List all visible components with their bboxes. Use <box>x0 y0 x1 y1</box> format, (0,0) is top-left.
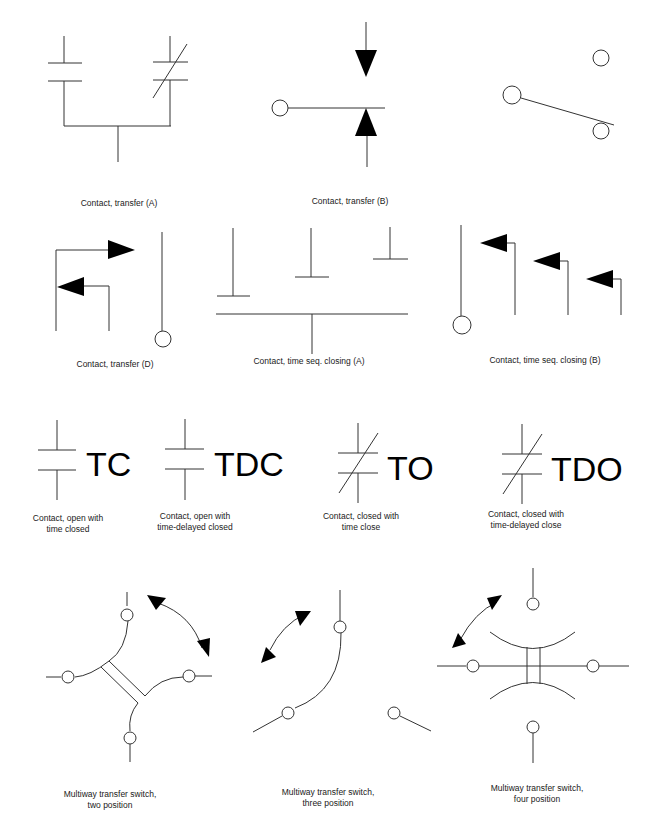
label-line-2: time closed <box>18 524 118 535</box>
label-line-1: Contact, closed with <box>311 511 411 522</box>
label-line-2: two position <box>50 800 170 811</box>
code-tdc: TDC <box>214 447 284 481</box>
contact-transfer-c-symbol <box>503 50 614 139</box>
multiway-four-position-symbol <box>437 568 629 763</box>
label-line-1: Multiway transfer switch, <box>268 787 388 798</box>
label-line-1: Multiway transfer switch, <box>477 783 597 794</box>
contact-closed-time-close-symbol <box>338 423 378 503</box>
label-contact-time-seq-closing-a: Contact, time seq. closing (A) <box>234 356 384 367</box>
label-contact-time-seq-closing-b: Contact, time seq. closing (B) <box>470 355 620 366</box>
label-line-1: Multiway transfer switch, <box>50 789 170 800</box>
label-contact-open-time-closed: Contact, open with time closed <box>18 513 118 535</box>
label-multiway-three-position: Multiway transfer switch, three position <box>268 787 388 809</box>
contact-open-time-closed-symbol <box>38 420 76 500</box>
label-contact-transfer-d: Contact, transfer (D) <box>60 359 170 370</box>
code-tdo: TDO <box>551 452 623 486</box>
label-line-2: time-delayed closed <box>140 522 250 533</box>
multiway-three-position-symbol <box>253 590 431 732</box>
contact-time-seq-closing-a-symbol <box>216 227 408 354</box>
contact-time-seq-closing-b-symbol <box>453 225 621 334</box>
label-multiway-four-position: Multiway transfer switch, four position <box>477 783 597 805</box>
contact-transfer-d-symbol <box>56 232 171 347</box>
label-line-2: three position <box>268 798 388 809</box>
label-line-2: time-delayed close <box>476 520 576 531</box>
label-multiway-two-position: Multiway transfer switch, two position <box>50 789 170 811</box>
label-line-1: Contact, closed with <box>476 509 576 520</box>
label-line-2: time close <box>311 522 411 533</box>
label-line-2: four position <box>477 794 597 805</box>
label-contact-transfer-a: Contact, transfer (A) <box>64 198 174 209</box>
code-to: TO <box>387 451 434 485</box>
contact-transfer-a-symbol <box>48 36 188 162</box>
contact-open-time-delayed-closed-symbol <box>165 419 204 500</box>
schematic-symbol-sheet <box>0 0 655 837</box>
label-line-1: Contact, open with <box>18 513 118 524</box>
code-tc: TC <box>86 447 131 481</box>
multiway-two-position-symbol <box>46 592 212 762</box>
label-contact-transfer-b: Contact, transfer (B) <box>295 196 405 207</box>
label-line-1: Contact, open with <box>140 511 250 522</box>
contact-transfer-b-symbol <box>272 22 385 167</box>
label-contact-open-time-delayed-closed: Contact, open with time-delayed closed <box>140 511 250 533</box>
label-contact-closed-time-close: Contact, closed with time close <box>311 511 411 533</box>
contact-closed-time-delayed-close-symbol <box>502 424 542 504</box>
label-contact-closed-time-delayed-close: Contact, closed with time-delayed close <box>476 509 576 531</box>
